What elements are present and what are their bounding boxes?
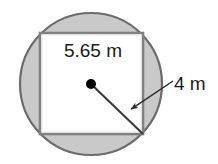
figure-canvas: 5.65 m 4 m (0, 0, 218, 164)
center-point (86, 79, 96, 89)
circle-radius-label: 4 m (174, 73, 206, 94)
geometry-figure: 5.65 m 4 m (0, 0, 218, 164)
square-side-label: 5.65 m (64, 40, 122, 61)
